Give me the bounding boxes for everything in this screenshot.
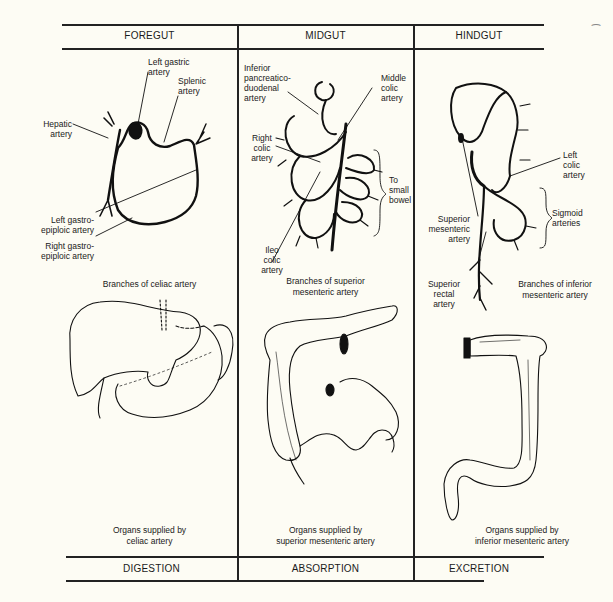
caption-line-1: Branches of inferior bbox=[500, 279, 610, 290]
caption-line-2: mesenteric artery bbox=[238, 287, 413, 298]
caption-organs-inferior-mesenteric: Organs supplied by inferior mesenteric a… bbox=[452, 525, 592, 547]
caption-line-2: celiac artery bbox=[62, 536, 237, 547]
label-hepatic-artery: Hepatic artery bbox=[26, 119, 72, 139]
anatomy-illustrations bbox=[0, 0, 613, 602]
caption-branches-inferior-mesenteric: Branches of inferior mesenteric artery bbox=[500, 279, 610, 301]
inferior-mesenteric-diagram bbox=[451, 84, 536, 310]
label-ileocolic-artery: Ileo colic artery bbox=[254, 245, 290, 275]
celiac-leader-lines bbox=[73, 72, 196, 236]
celiac-organs bbox=[70, 300, 233, 418]
caption-line-1: Organs supplied by bbox=[452, 525, 592, 536]
label-left-gastroepiploic-artery: Left gastro- epiploic artery bbox=[22, 215, 94, 235]
caption-organs-superior-mesenteric: Organs supplied by superior mesenteric a… bbox=[238, 525, 413, 547]
label-splenic-artery: Splenic artery bbox=[178, 76, 206, 96]
label-superior-mesenteric-artery: Superior mesenteric artery bbox=[420, 214, 470, 244]
caption-line-2: inferior mesenteric artery bbox=[452, 536, 592, 547]
label-inferior-pancreaticoduodenal-artery: Inferior pancreatico- duodenal artery bbox=[244, 63, 291, 103]
caption-branches-celiac: Branches of celiac artery bbox=[62, 279, 237, 290]
caption-line-2: superior mesenteric artery bbox=[238, 536, 413, 547]
label-right-gastroepiploic-artery: Right gastro- epiploic artery bbox=[22, 241, 94, 261]
caption-line-1: Organs supplied by bbox=[62, 525, 237, 536]
midgut-organs bbox=[265, 306, 399, 484]
label-left-colic-artery: Left colic artery bbox=[563, 150, 585, 180]
caption-line-2: mesenteric artery bbox=[500, 290, 610, 301]
caption-line-1: Branches of superior bbox=[238, 276, 413, 287]
label-sigmoid-arteries: Sigmoid arteries bbox=[552, 208, 583, 228]
label-middle-colic-artery: Middle colic artery bbox=[381, 73, 406, 103]
label-left-gastric-artery: Left gastric artery bbox=[148, 57, 190, 77]
label-right-colic-artery: Right colic artery bbox=[244, 133, 280, 163]
label-superior-rectal-artery: Superior rectal artery bbox=[422, 279, 466, 309]
celiac-artery-diagram bbox=[100, 112, 210, 224]
caption-branches-superior-mesenteric: Branches of superior mesenteric artery bbox=[238, 276, 413, 298]
function-absorption: ABSORPTION bbox=[238, 563, 413, 574]
label-to-small-bowel: To small bowel bbox=[389, 175, 411, 205]
caption-line-1: Organs supplied by bbox=[238, 525, 413, 536]
caption-organs-celiac: Organs supplied by celiac artery bbox=[62, 525, 237, 547]
function-excretion: EXCRETION bbox=[414, 563, 544, 574]
midgut-leader-lines bbox=[272, 88, 386, 262]
hindgut-organs bbox=[444, 335, 546, 520]
function-digestion: DIGESTION bbox=[66, 563, 237, 574]
